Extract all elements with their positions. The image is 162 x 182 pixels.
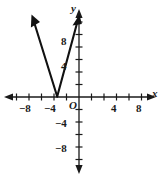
v-shaped-graph bbox=[31, 15, 82, 97]
y-tick-label-8: 8 bbox=[61, 36, 67, 47]
x-tick-label-neg8: −8 bbox=[19, 103, 31, 114]
y-tick-label-neg8: −8 bbox=[55, 143, 67, 154]
x-tick-label-neg4: −4 bbox=[44, 103, 56, 114]
y-axis-down-arrow-icon bbox=[75, 165, 82, 174]
graph-canvas bbox=[0, 0, 162, 182]
x-tick-label-8: 8 bbox=[136, 103, 142, 114]
coordinate-plane-figure: −8 −4 4 8 8 4 −4 −8 O x y bbox=[0, 0, 162, 182]
v-left-branch bbox=[35, 24, 58, 97]
y-tick-label-neg4: −4 bbox=[55, 118, 67, 129]
x-axis-group bbox=[4, 93, 156, 100]
y-axis-label: y bbox=[71, 3, 76, 14]
y-axis-group bbox=[75, 9, 82, 174]
x-axis-label: x bbox=[152, 88, 158, 99]
y-tick-label-4: 4 bbox=[61, 61, 67, 72]
x-tick-label-4: 4 bbox=[111, 103, 117, 114]
x-axis-left-arrow-icon bbox=[4, 93, 13, 100]
origin-label: O bbox=[69, 100, 77, 111]
